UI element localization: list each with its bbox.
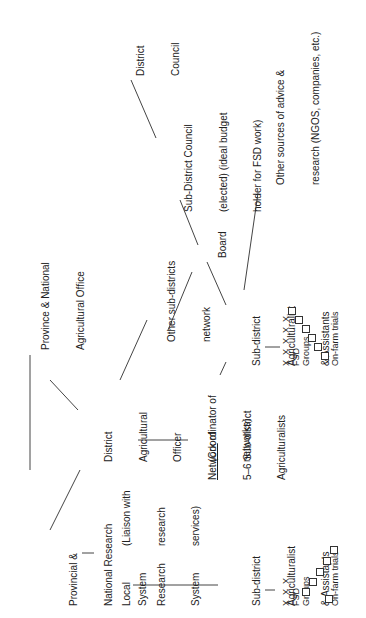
node-network-of-subdistrict-agriculturalists: Network of 5–6 Sub-district Agricultural…: [184, 411, 311, 480]
trial-square-icon: [316, 568, 324, 576]
trial-square-icon: [288, 307, 296, 315]
node-other-subdistricts-network: Other sub-districts network: [143, 261, 235, 342]
on-farm-trials-label-right: On-farm trials: [330, 311, 340, 366]
trial-square-icon: [302, 325, 310, 333]
line-network-to-subdistrict-ag: [220, 362, 226, 375]
node-other-sources: Other sources of advice & research (NGOS…: [252, 32, 344, 185]
trial-square-icon: [302, 588, 310, 596]
trial-square-icon: [308, 334, 316, 342]
fsd-group-marks-right: X X X X X: [281, 316, 291, 366]
line-district-council-to-subdistrict-council: [131, 80, 156, 138]
fsd-label-bottom: FSD: [291, 588, 301, 606]
fsd-label-right: FSD: [291, 348, 301, 366]
trial-square-icon: [314, 343, 322, 351]
node-board: Board: [194, 231, 252, 258]
trial-square-icon: [323, 557, 331, 565]
node-local-research-system: Local Research System: [98, 563, 225, 606]
fsd-group-marks-bottom: X X X: [281, 578, 291, 606]
node-liaison-note: (Liaison with research services): [98, 490, 225, 546]
trial-square-icon: [295, 316, 303, 324]
line-province-office-to-dao: [50, 380, 78, 410]
node-district-council: District Council: [112, 43, 204, 76]
trial-square-icon: [325, 595, 333, 603]
org-diagram: District Council Sub-District Council (e…: [0, 0, 366, 618]
trial-square-icon: [330, 546, 338, 554]
trial-square-icon: [321, 352, 329, 360]
line-dao-to-provincial-research: [50, 470, 80, 530]
trial-square-icon: [309, 578, 317, 586]
node-province-national-ag-office: Province & National Agricultural Office: [17, 262, 109, 350]
